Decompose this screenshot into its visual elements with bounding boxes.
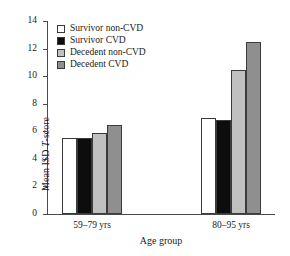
y-axis-tick-label: 8 bbox=[32, 99, 37, 109]
x-axis-group-label: 80–95 yrs bbox=[212, 220, 250, 230]
bar bbox=[231, 70, 246, 214]
y-axis-tick: 0 bbox=[43, 214, 47, 215]
y-axis-tick: 14 bbox=[43, 21, 47, 22]
legend-swatch-icon bbox=[57, 37, 65, 45]
x-axis-line bbox=[47, 214, 275, 215]
chart-legend: Survivor non-CVDSurvivor CVDDecedent non… bbox=[57, 23, 146, 71]
legend-item-label: Survivor CVD bbox=[70, 36, 126, 46]
y-axis-tick-label: 6 bbox=[32, 127, 37, 137]
y-axis-title-suffix: -score bbox=[40, 117, 51, 141]
legend-item: Survivor CVD bbox=[57, 35, 146, 46]
bar bbox=[77, 138, 92, 214]
x-axis-group-label: 59–79 yrs bbox=[73, 220, 111, 230]
bar bbox=[216, 120, 231, 214]
bar-chart-figure: 02468101214 59–79 yrs80–95 yrs Age group… bbox=[0, 0, 290, 256]
x-axis-title: Age group bbox=[47, 235, 275, 246]
y-axis-tick-label: 4 bbox=[32, 154, 37, 164]
y-axis-tick-label: 2 bbox=[32, 182, 37, 192]
legend-item-label: Decedent non-CVD bbox=[70, 48, 146, 58]
plot-area: 02468101214 59–79 yrs80–95 yrs Age group… bbox=[47, 21, 275, 214]
legend-swatch-icon bbox=[57, 61, 65, 69]
legend-item: Survivor non-CVD bbox=[57, 23, 146, 34]
y-axis-tick-label: 12 bbox=[28, 44, 38, 54]
legend-item: Decedent CVD bbox=[57, 59, 146, 70]
legend-swatch-icon bbox=[57, 25, 65, 33]
y-axis-tick-label: 14 bbox=[28, 16, 38, 26]
y-axis-tick-label: 0 bbox=[32, 209, 37, 219]
y-axis-tick: 8 bbox=[43, 104, 47, 105]
bar bbox=[62, 138, 77, 214]
y-axis-title-prefix: Mean ISD bbox=[40, 147, 51, 191]
bar bbox=[107, 125, 122, 214]
legend-item: Decedent non-CVD bbox=[57, 47, 146, 58]
y-axis-tick-label: 10 bbox=[28, 71, 38, 81]
legend-item-label: Survivor non-CVD bbox=[70, 24, 143, 34]
y-axis-title-italic: T bbox=[40, 141, 51, 147]
bar bbox=[246, 42, 261, 214]
y-axis-title: Mean ISD T-score bbox=[40, 117, 51, 191]
y-axis-tick: 12 bbox=[43, 49, 47, 50]
bar bbox=[92, 133, 107, 214]
legend-item-label: Decedent CVD bbox=[70, 60, 128, 70]
legend-swatch-icon bbox=[57, 49, 65, 57]
y-axis-tick: 10 bbox=[43, 76, 47, 77]
bar bbox=[201, 118, 216, 215]
